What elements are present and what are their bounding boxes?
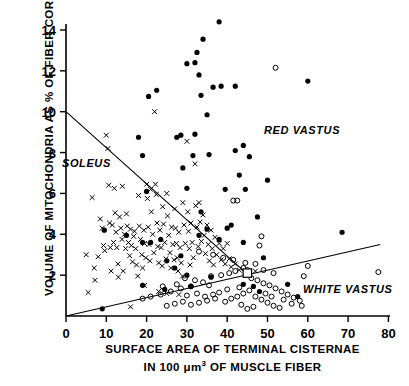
y-axis-label: VOLUME OF MITOCHONDRIA AS % OF FIBER COR… xyxy=(43,6,55,296)
series-white-vastus-points xyxy=(140,65,381,311)
group-label-soleus: SOLEUS xyxy=(62,157,111,169)
group-label-red-vastus: RED VASTUS xyxy=(264,124,340,136)
svg-text:0: 0 xyxy=(62,326,69,341)
series-soleus-points xyxy=(84,109,258,309)
svg-text:50: 50 xyxy=(260,326,274,341)
svg-text:10: 10 xyxy=(99,326,113,341)
x-axis-ticks xyxy=(66,316,388,322)
group-label-white-vastus: WHITE VASTUS xyxy=(303,283,393,295)
x-axis-label-line1: SURFACE AREA OF TERMINAL CISTERNAE xyxy=(60,343,405,355)
series-red-vastus-points xyxy=(100,19,345,311)
svg-text:80: 80 xyxy=(381,326,395,341)
svg-text:40: 40 xyxy=(220,326,234,341)
svg-text:60: 60 xyxy=(301,326,315,341)
micrometre-unit: μm xyxy=(183,361,201,373)
y-axis-ticks xyxy=(60,30,66,275)
svg-text:20: 20 xyxy=(139,326,153,341)
x-axis-label-suffix: OF MUSCLE FIBER xyxy=(206,361,321,373)
axis-lines xyxy=(66,24,390,316)
scatter-plot-canvas: 010203040506070802468101214 xyxy=(0,0,409,386)
intersection-square-marker xyxy=(243,269,251,277)
x-axis-label-prefix: IN 100 xyxy=(144,361,184,373)
figure: 010203040506070802468101214 VOLUME OF MI… xyxy=(0,0,409,386)
x-axis-label-line2: IN 100 μm3 OF MUSCLE FIBER xyxy=(60,359,405,373)
svg-text:30: 30 xyxy=(180,326,194,341)
svg-text:70: 70 xyxy=(341,326,355,341)
